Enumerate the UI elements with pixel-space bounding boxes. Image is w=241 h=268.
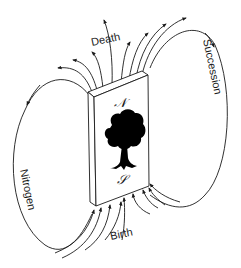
- succession-label: Succession: [201, 38, 224, 96]
- magnet-ecosystem-diagram: 𝒩 𝒮 Death Birth Nitrogen Succession: [0, 0, 241, 268]
- death-label: Death: [90, 30, 121, 48]
- nitrogen-label: Nitrogen: [18, 168, 38, 211]
- birth-label: Birth: [109, 226, 134, 242]
- left-field-loop: [13, 80, 92, 250]
